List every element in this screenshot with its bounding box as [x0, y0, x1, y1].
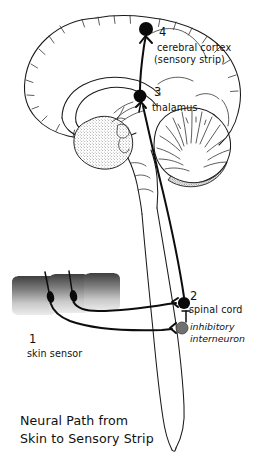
neural-pathway-diagram: 4 cerebral cortex (sensory strip) 3 thal… — [0, 0, 263, 473]
label-interneuron-line1: inhibitory — [190, 321, 235, 332]
label-2-text: spinal cord — [189, 304, 243, 315]
label-1-number: 1 — [29, 332, 36, 346]
brainstem — [128, 150, 158, 214]
label-spinal-cord: 2 spinal cord — [189, 289, 243, 315]
label-4-line2: (sensory strip) — [154, 54, 225, 65]
label-skin-sensor: 1 skin sensor — [27, 332, 82, 359]
interneuron-dendrites — [170, 323, 176, 333]
label-3-text: thalamus — [152, 102, 198, 113]
label-1-text: skin sensor — [27, 348, 82, 359]
skin-block — [84, 273, 120, 311]
skin-block-group — [12, 273, 120, 315]
label-thalamus: 3 thalamus — [152, 85, 198, 113]
cerebellum — [154, 108, 231, 187]
figure-caption: Neural Path from Skin to Sensory Strip — [20, 413, 154, 446]
label-2-number: 2 — [190, 289, 197, 303]
label-3-number: 3 — [154, 85, 161, 99]
inhibitory-interneuron-node — [176, 322, 188, 334]
caption-line2: Skin to Sensory Strip — [20, 431, 154, 446]
cortex-neuron-node — [139, 22, 153, 36]
label-interneuron-line2: interneuron — [190, 333, 245, 344]
subcortical-stippled-region — [74, 116, 133, 169]
label-4-line1: cerebral cortex — [157, 42, 231, 53]
caption-line1: Neural Path from — [20, 413, 128, 428]
skin-block — [49, 274, 90, 313]
label-cerebral-cortex: 4 cerebral cortex (sensory strip) — [154, 25, 231, 65]
thalamocortical-axon — [140, 36, 146, 90]
ascending-axon-spinothalamic — [143, 106, 184, 297]
thalamus-neuron-node — [134, 90, 147, 103]
label-inhibitory-interneuron: inhibitory interneuron — [190, 321, 245, 344]
label-4-number: 4 — [159, 25, 166, 39]
